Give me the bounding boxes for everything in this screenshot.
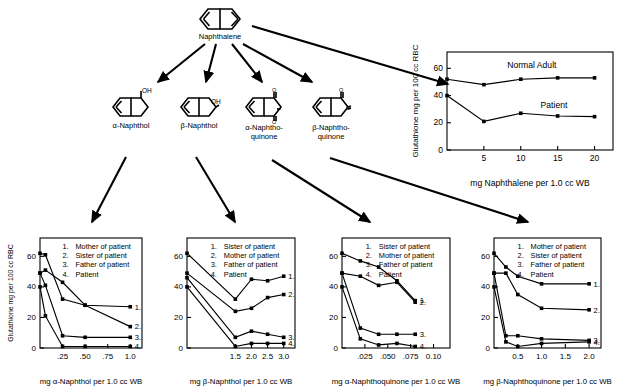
data-point (185, 276, 189, 280)
y-tick-label: 0 (486, 344, 491, 353)
data-point (282, 293, 286, 297)
y-tick-label: 40 (434, 90, 444, 100)
series-line (494, 273, 589, 310)
legend-number: 2. (518, 251, 524, 260)
series-end-label: 4. (135, 342, 141, 351)
x-tick-label: 1.0 (125, 352, 137, 361)
y-tick-label: 40 (329, 282, 338, 291)
x-tick-label: 1.0 (536, 352, 548, 361)
data-point (185, 285, 189, 289)
legend-number: 4. (211, 270, 217, 279)
data-point (359, 326, 363, 330)
legend-number: 3. (211, 260, 217, 269)
plot-annotation: Normal Adult (507, 60, 557, 70)
data-point (234, 345, 238, 349)
data-point (250, 329, 254, 333)
data-point (266, 342, 270, 346)
data-point (250, 306, 254, 310)
data-point (519, 111, 523, 115)
y-tick-label: 60 (329, 252, 338, 261)
y-axis-label: Glutathione mg per 100 cc RBC (411, 44, 420, 157)
series-end-label: 2. (135, 322, 141, 331)
x-tick-label: .75 (102, 352, 114, 361)
data-point (128, 345, 132, 349)
data-point (593, 76, 597, 80)
alpha-naphthol-structure: OH (110, 88, 152, 122)
series-end-label: 3. (135, 333, 141, 342)
legend-label: Father of patient (75, 260, 129, 269)
series-end-label: 2. (288, 290, 294, 299)
arrow-alpha-naphthoquinone-to-chart (272, 160, 370, 222)
legend-number: 4. (366, 270, 372, 279)
y-tick-label: 0 (438, 145, 443, 155)
data-point (44, 268, 48, 272)
data-point (128, 325, 132, 329)
data-point (83, 336, 87, 340)
series-end-label: 1. (288, 272, 294, 281)
data-point (359, 274, 363, 278)
data-point (504, 340, 508, 344)
data-point (395, 342, 399, 346)
x-axis-label: mg α-Naphthol per 1.0 cc WB (40, 377, 142, 386)
x-tick-label: 10 (516, 153, 526, 163)
data-point (266, 332, 270, 336)
data-point (413, 332, 417, 336)
alpha-naphthoquinone-label2: quinone (233, 133, 295, 142)
x-tick-label: 1.5 (560, 352, 572, 361)
data-point (413, 300, 417, 304)
series-line (447, 96, 595, 122)
y-tick-label: 0 (334, 344, 339, 353)
legend-label: Mother of patient (224, 251, 279, 260)
alpha-naphthoquinone-chart-plot: 0204060.025.050.0750.101.2.3.4.1.Sister … (312, 230, 472, 388)
y-tick-label: 40 (481, 282, 490, 291)
legend-number: 2. (211, 251, 217, 260)
data-point (492, 285, 496, 289)
x-axis-label: mg α-Naphthoquinone per 1.0 cc WB (332, 377, 460, 386)
y-tick-label: 0 (32, 344, 37, 353)
data-point (587, 340, 591, 344)
x-tick-label: 20 (590, 153, 600, 163)
y-tick-label: 60 (434, 63, 444, 73)
legend-label: Sister of patient (75, 251, 126, 260)
data-point (492, 271, 496, 275)
legend-label: Mother of patient (531, 242, 586, 251)
legend-label: Mother of patient (75, 242, 130, 251)
legend-number: 3. (62, 260, 68, 269)
data-point (359, 337, 363, 341)
data-point (395, 281, 399, 285)
naphthalene-structure (197, 5, 243, 33)
data-point (482, 83, 486, 87)
svg-text:OH: OH (211, 98, 221, 105)
data-point (61, 281, 65, 285)
legend-number: 3. (518, 260, 524, 269)
beta-naphthoquinone-label2: quinone (300, 133, 362, 142)
y-tick-label: 20 (174, 313, 183, 322)
data-point (445, 94, 449, 98)
x-tick-label: 0.10 (426, 352, 442, 361)
data-point (61, 345, 65, 349)
y-tick-label: 60 (174, 252, 183, 261)
data-point (234, 297, 238, 301)
data-point (185, 271, 189, 275)
data-point (492, 251, 496, 255)
legend-label: Sister of patient (531, 251, 582, 260)
y-tick-label: 0 (179, 344, 184, 353)
data-point (38, 271, 42, 275)
legend-label: Patient (379, 270, 402, 279)
x-tick-label: .25 (57, 352, 69, 361)
x-tick-label: 15 (553, 153, 563, 163)
plot-annotation: Patient (541, 100, 568, 110)
legend-number: 3. (366, 260, 372, 269)
series-end-label: 2. (420, 298, 426, 307)
beta-naphthol-label: β-Naphthol (168, 122, 230, 131)
data-point (250, 342, 254, 346)
legend-label: Father of patient (379, 260, 433, 269)
naphthalene-chart-plot: 02040605101520Normal AdultPatientmg Naph… (405, 42, 623, 190)
series-line (342, 287, 415, 347)
data-point (61, 297, 65, 301)
y-tick-label: 20 (481, 313, 490, 322)
x-tick-label: 2.0 (584, 352, 596, 361)
data-point (38, 285, 42, 289)
series-end-label: 1. (135, 303, 141, 312)
data-point (61, 334, 65, 338)
